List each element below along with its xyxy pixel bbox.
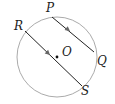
label-o: O	[62, 45, 72, 59]
label-s: S	[81, 84, 89, 98]
geometry-diagram: P R O Q S	[0, 0, 115, 104]
label-r: R	[13, 19, 23, 33]
label-q: Q	[97, 54, 107, 68]
chord-rs	[25, 31, 82, 86]
chord-pq	[52, 17, 94, 52]
center-point	[56, 56, 59, 59]
label-p: P	[45, 1, 55, 15]
